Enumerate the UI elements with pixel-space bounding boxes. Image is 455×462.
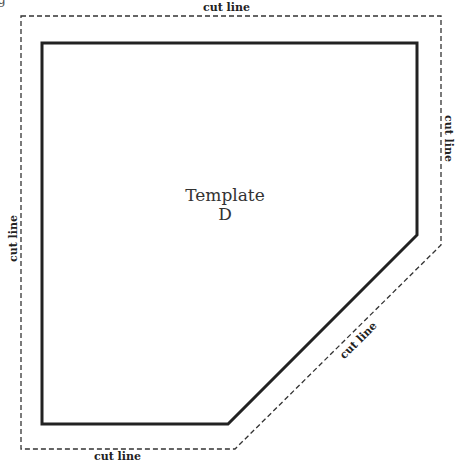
template-letter: D bbox=[170, 205, 280, 224]
cut-line-label-left: cut line bbox=[7, 215, 20, 262]
cut-line-label-bottom: cut line bbox=[94, 450, 141, 462]
template-label: Template D bbox=[170, 186, 280, 224]
cut-line-label-right: cut line bbox=[442, 115, 455, 162]
cut-line-label-top: cut line bbox=[203, 1, 250, 14]
template-title: Template bbox=[170, 186, 280, 205]
template-outline bbox=[42, 43, 417, 424]
cut-line-outline bbox=[21, 16, 441, 449]
